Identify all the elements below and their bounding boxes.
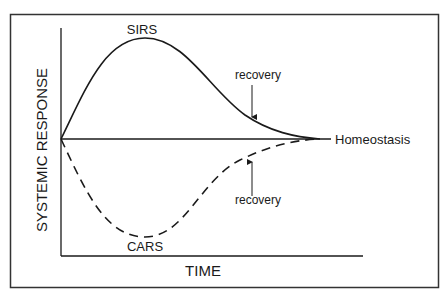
y-axis-label: SYSTEMIC RESPONSE [33,68,50,232]
cars-label: CARS [127,239,163,254]
sirs-curve [61,38,320,139]
x-axis-label: TIME [185,262,221,279]
cars-recovery-label: recovery [235,193,281,207]
cars-curve [61,139,320,237]
diagram-frame [11,15,439,288]
sirs-recovery-label: recovery [235,68,281,82]
sirs-cars-diagram: SIRS CARS recovery recovery Homeostasis … [0,0,447,297]
homeostasis-label: Homeostasis [335,132,411,147]
sirs-label: SIRS [127,22,158,37]
